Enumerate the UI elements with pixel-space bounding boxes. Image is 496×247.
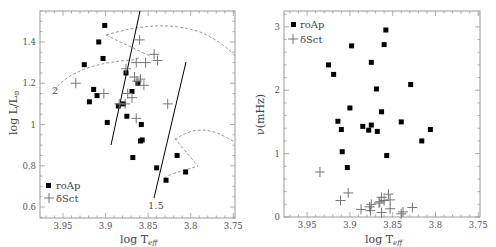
legend-roap-marker	[291, 22, 296, 27]
dsct-point	[71, 78, 81, 88]
x-tick-label: 3.9	[343, 220, 357, 230]
track-label-2: 2	[52, 85, 58, 96]
roap-point	[335, 119, 340, 124]
x-tick-label: 3.75	[469, 220, 488, 230]
right-panel-frequency: 3.953.93.853.83.750123 roAp δSct log Tef…	[254, 11, 488, 247]
roap-point	[408, 82, 413, 87]
y-tick-label: 1	[31, 120, 36, 130]
roap-point	[124, 114, 129, 119]
roap-point	[419, 138, 424, 143]
roap-point	[369, 60, 374, 65]
roap-point	[379, 109, 384, 114]
dsct-point	[385, 195, 395, 205]
roap-point	[82, 62, 87, 67]
track-1.5-upper	[175, 130, 235, 142]
dsct-point	[130, 72, 140, 82]
dsct-point	[121, 64, 131, 74]
x-tick-label: 3.85	[383, 220, 402, 230]
roap-point	[130, 155, 135, 160]
roap-point	[183, 169, 188, 174]
x-tick-label: 3.8	[184, 221, 198, 231]
legend-roap-label: roAp	[300, 19, 324, 30]
dsct-point	[375, 197, 385, 207]
roap-point	[399, 119, 404, 124]
roap-point	[140, 137, 145, 142]
y-tick-label: 3	[275, 22, 280, 32]
roap-point	[326, 62, 331, 67]
red-edge-line	[154, 62, 186, 198]
dsct-point	[131, 58, 141, 68]
dsct-point	[398, 207, 408, 217]
x-tick-label: 3.85	[139, 221, 158, 231]
y-tick-label: 1.4	[22, 37, 36, 47]
left-panel-hr-diagram: 3.953.93.853.83.750.60.811.21.4 2 1.5 ro…	[7, 11, 243, 247]
dsct-point	[131, 113, 141, 123]
roap-point	[382, 42, 387, 47]
roap-point	[375, 129, 380, 134]
roap-point	[428, 127, 433, 132]
dsct-point	[114, 99, 124, 109]
y-tick-label: 1	[275, 149, 280, 159]
blue-edge-line	[111, 11, 140, 145]
dsct-point	[407, 202, 417, 212]
y-tick-label: 0.8	[22, 161, 36, 171]
x-tick-label: 3.95	[298, 220, 317, 230]
left-data-points	[71, 23, 188, 183]
roap-point	[369, 123, 374, 128]
y-tick-label: 0	[275, 212, 280, 222]
roap-point	[339, 127, 344, 132]
dsct-point	[315, 167, 325, 177]
dsct-point	[141, 58, 151, 68]
right-y-axis-label: ν(mHz)	[254, 94, 267, 135]
roap-point	[349, 43, 354, 48]
roap-point	[345, 165, 350, 170]
legend-dsct-label: δSct	[56, 193, 79, 204]
roap-point	[96, 39, 101, 44]
dsct-point	[374, 198, 384, 208]
track-2-upper	[106, 26, 235, 56]
track-2-hook	[106, 35, 150, 56]
legend-roap-label: roAp	[56, 180, 80, 191]
x-tick-label: 3.8	[429, 220, 443, 230]
roap-point	[347, 105, 352, 110]
track-label-1.5: 1.5	[148, 200, 164, 211]
roap-point	[154, 165, 159, 170]
track-1.5-hook	[175, 138, 198, 166]
roap-point	[360, 124, 365, 129]
right-data-points	[315, 28, 433, 219]
roap-point	[331, 72, 336, 77]
left-legend: roAp δSct	[44, 180, 80, 204]
chart-canvas: 3.953.93.853.83.750.60.811.21.4 2 1.5 ro…	[0, 0, 496, 247]
dsct-point	[99, 89, 109, 99]
roap-point	[374, 86, 379, 91]
y-tick-label: 1.2	[22, 78, 36, 88]
legend-dsct-marker	[44, 193, 54, 203]
left-y-axis-label: log L/L⊙	[7, 90, 21, 135]
roap-point	[95, 93, 100, 98]
roap-point	[384, 153, 389, 158]
roap-point	[91, 87, 96, 92]
right-legend: roAp δSct	[288, 19, 324, 45]
dsct-point	[343, 188, 353, 198]
roap-point	[101, 56, 106, 61]
roap-point	[105, 120, 110, 125]
legend-dsct-marker	[288, 34, 298, 44]
x-tick-label: 3.9	[99, 221, 113, 231]
y-tick-label: 2	[275, 85, 280, 95]
x-tick-label: 3.95	[54, 221, 73, 231]
dsct-point	[356, 204, 366, 214]
roap-point	[164, 178, 169, 183]
roap-point	[87, 99, 92, 104]
dsct-point	[335, 196, 345, 206]
dsct-point	[377, 208, 387, 218]
track-1.5-lower	[164, 166, 198, 178]
right-x-axis-label: log Teff	[365, 233, 403, 247]
roap-point	[383, 28, 388, 33]
roap-point	[366, 128, 371, 133]
dsct-point	[163, 99, 173, 109]
legend-dsct-label: δSct	[300, 34, 323, 45]
dsct-point	[127, 93, 137, 103]
y-tick-label: 0.6	[22, 202, 36, 212]
legend-roap-marker	[46, 183, 51, 188]
roap-point	[175, 153, 180, 158]
